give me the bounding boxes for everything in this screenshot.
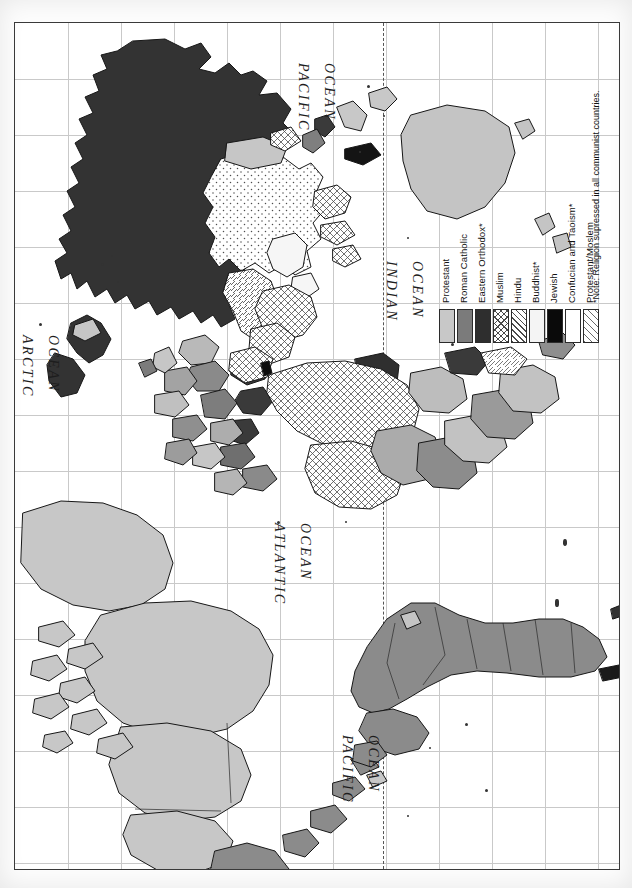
map-legend: ProtestantRoman CatholicEastern Orthodox… xyxy=(439,173,607,343)
legend-label-2: Eastern Orthodox* xyxy=(476,223,487,303)
atlantic-ocean-label-line1: ATLANTIC xyxy=(271,523,287,605)
island-speck xyxy=(383,115,385,117)
legend-item-6: Jewish xyxy=(547,173,564,343)
legend-swatch-1 xyxy=(457,309,473,343)
legend-item-7: Confucian and Taoism* xyxy=(565,173,582,343)
island-speck xyxy=(485,789,488,792)
island-speck xyxy=(101,263,104,266)
island-speck xyxy=(407,815,409,817)
legend-label-4: Hindu xyxy=(512,278,523,303)
island-speck xyxy=(111,255,113,257)
pacific-ocean-north-label-line2: OCEAN xyxy=(321,63,337,121)
map-artwork xyxy=(15,23,619,869)
legend-label-0: Protestant xyxy=(440,259,451,303)
legend-swatch-7 xyxy=(565,309,581,343)
legend-label-1: Roman Catholic xyxy=(458,234,469,303)
legend-label-3: Muslim xyxy=(494,272,505,303)
legend-swatch-5 xyxy=(529,309,545,343)
island-speck xyxy=(563,539,567,546)
legend-label-7: Confucian and Taoism* xyxy=(566,203,577,303)
indian-ocean-label-line2: OCEAN xyxy=(409,261,425,319)
island-speck xyxy=(345,521,347,523)
island-speck xyxy=(367,85,370,88)
island-speck xyxy=(429,747,431,749)
legend-item-1: Roman Catholic xyxy=(457,173,474,343)
legend-item-3: Muslim xyxy=(493,173,510,343)
pacific-ocean-south-label-line2: OCEAN xyxy=(365,735,381,793)
island-speck xyxy=(555,599,559,607)
legend-item-0: Protestant xyxy=(439,173,456,343)
island-speck xyxy=(407,237,409,239)
pacific-ocean-north-label-line1: PACIFIC xyxy=(295,63,311,132)
island-speck xyxy=(359,151,361,153)
arctic-ocean-label-line1: ARCTIC xyxy=(19,335,35,398)
island-speck xyxy=(451,343,454,346)
legend-swatch-4 xyxy=(511,309,527,343)
island-speck xyxy=(39,323,42,326)
legend-label-6: Jewish xyxy=(548,273,559,303)
legend-swatch-3 xyxy=(493,309,509,343)
legend-item-2: Eastern Orthodox* xyxy=(475,173,492,343)
map-frame: PACIFICOCEANINDIANOCEANARCTICOCEANATLANT… xyxy=(14,22,620,870)
legend-swatch-6 xyxy=(547,309,563,343)
legend-swatch-8 xyxy=(583,309,599,343)
legend-swatch-2 xyxy=(475,309,491,343)
legend-item-5: Buddhist* xyxy=(529,173,546,343)
indian-ocean-label-line1: INDIAN xyxy=(383,261,399,322)
atlantic-ocean-label-line2: OCEAN xyxy=(297,523,313,581)
page-canvas: PACIFICOCEANINDIANOCEANARCTICOCEANATLANT… xyxy=(0,0,632,888)
island-speck xyxy=(465,723,468,726)
pacific-ocean-south-label-line1: PACIFIC xyxy=(339,735,355,804)
legend-item-4: Hindu xyxy=(511,173,528,343)
island-speck xyxy=(117,281,119,283)
arctic-ocean-label-line2: OCEAN xyxy=(45,335,61,393)
legend-swatch-0 xyxy=(439,309,455,343)
legend-note: *Note: Religion supressed in all communi… xyxy=(591,90,601,303)
legend-label-5: Buddhist* xyxy=(530,261,541,303)
